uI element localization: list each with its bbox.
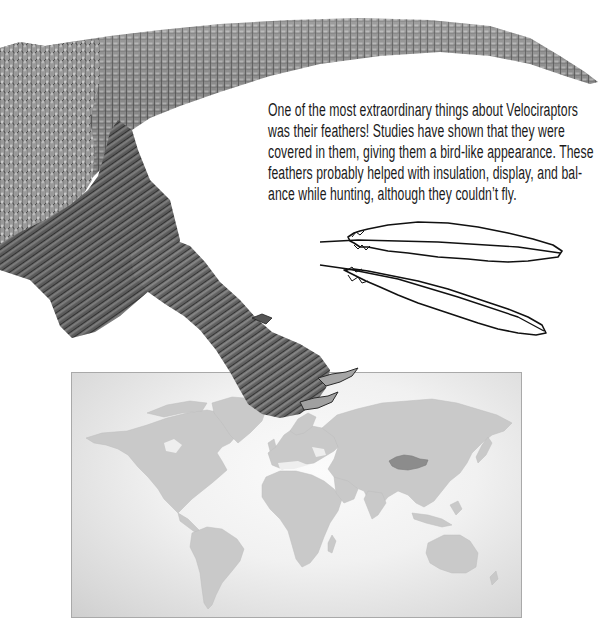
- dinosaur-thigh-shape: [0, 120, 180, 338]
- dinosaur-body-shape: [0, 40, 100, 246]
- world-map: [71, 372, 522, 618]
- paragraph-line-3: covered in them, giving them a bird-like…: [268, 142, 588, 163]
- paragraph-line-4: feathers probably helped with insulation…: [268, 163, 588, 184]
- australia-shape: [426, 535, 478, 573]
- africa-shape: [262, 471, 342, 567]
- feather-bottom-icon: [320, 265, 546, 335]
- paragraph-line-2: was their feathers! Studies have shown t…: [268, 121, 588, 142]
- paragraph-line-1: One of the most extraordinary things abo…: [268, 100, 588, 121]
- south-america-shape: [190, 527, 244, 609]
- page: One of the most extraordinary things abo…: [0, 0, 601, 642]
- world-map-icon: [72, 373, 522, 618]
- feathers-paragraph: One of the most extraordinary things abo…: [268, 100, 588, 205]
- north-america-shape: [86, 410, 237, 513]
- dewclaw-icon: [252, 314, 272, 324]
- feathers-illustration: [318, 215, 568, 345]
- paragraph-line-5: ance while hunting, although they couldn…: [268, 184, 588, 205]
- feather-top-icon: [320, 222, 562, 262]
